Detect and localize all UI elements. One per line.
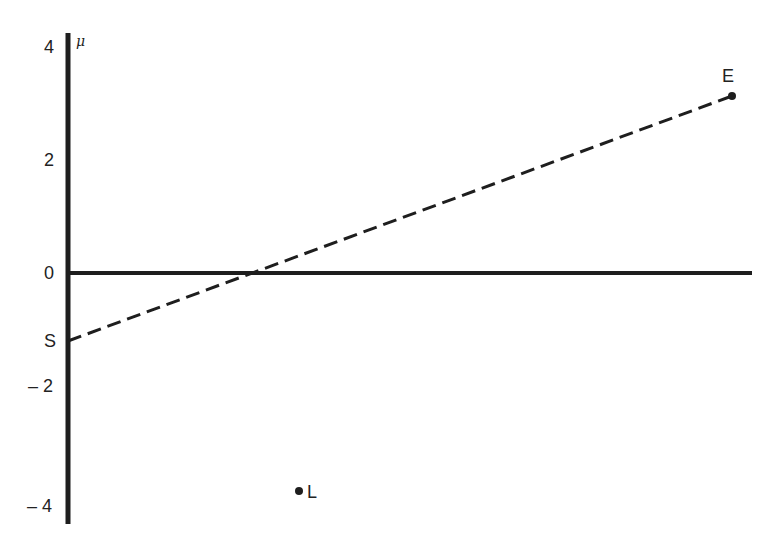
dashed-line-s-to-e: [68, 96, 732, 341]
y-tick-0: 0: [44, 263, 54, 284]
label-s: S: [44, 331, 56, 352]
y-tick-2: 2: [44, 150, 54, 171]
y-tick-minus-4: – 4: [27, 496, 52, 517]
point-e: [728, 92, 736, 100]
chart-canvas: [0, 0, 774, 544]
y-axis-label: μ: [76, 33, 85, 49]
label-l: L: [307, 482, 317, 503]
label-e: E: [722, 66, 734, 87]
point-l: [295, 487, 303, 495]
y-tick-4: 4: [44, 37, 54, 58]
y-tick-minus-2: – 2: [28, 376, 53, 397]
